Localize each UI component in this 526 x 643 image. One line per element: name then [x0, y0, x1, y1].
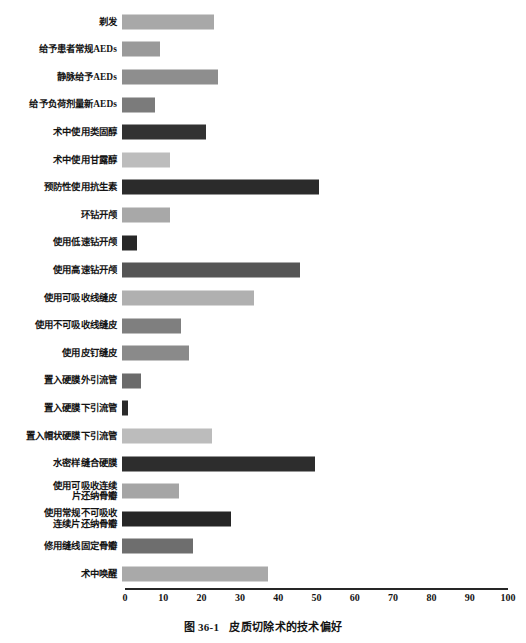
- bar: [122, 235, 137, 250]
- bar: [122, 373, 141, 388]
- figure-container: 剃发给予患者常规AEDs静脉给予AEDs给予负荷剂量新AEDs术中使用类固醇术中…: [0, 0, 526, 643]
- bar: [122, 318, 181, 333]
- figure-caption: 图 36-1皮质切除术的技术偏好: [0, 618, 526, 634]
- bar-track: [122, 422, 526, 450]
- bar-category-label: 修用缝线固定骨瓣: [0, 541, 122, 552]
- bar-category-label: 预防性使用抗生素: [0, 182, 122, 193]
- x-axis-tick-label: 50: [312, 592, 322, 603]
- bar-track: [122, 367, 526, 395]
- bar-category-label: 剃发: [0, 17, 122, 28]
- bar-category-label: 置入帽状硬膜下引流管: [0, 431, 122, 442]
- bar: [122, 97, 155, 112]
- bar: [122, 566, 268, 581]
- bar-category-label: 使用可吸收线缝皮: [0, 293, 122, 304]
- bar: [122, 539, 193, 554]
- bar-category-label: 环钻开颅: [0, 210, 122, 221]
- bar: [122, 70, 218, 85]
- x-axis-tick-label: 20: [197, 592, 207, 603]
- x-axis-tick-label: 80: [426, 592, 436, 603]
- bar-category-label: 给予患者常规AEDs: [0, 44, 122, 55]
- chart-row: 使用皮钉缝皮: [0, 339, 526, 367]
- bar-track: [122, 229, 526, 257]
- bar-category-label: 使用常规不可吸收连续片还纳骨瓣: [0, 508, 122, 529]
- bar-track: [122, 36, 526, 64]
- bar-track: [122, 284, 526, 312]
- bar-track: [122, 63, 526, 91]
- bar: [122, 42, 160, 57]
- bar-category-label: 使用皮钉缝皮: [0, 348, 122, 359]
- bar-category-label: 术中唤醒: [0, 569, 122, 580]
- chart-row: 术中使用甘露醇: [0, 146, 526, 174]
- bar-category-label: 术中使用类固醇: [0, 127, 122, 138]
- chart-row: 使用可吸收线缝皮: [0, 284, 526, 312]
- bar-track: [122, 339, 526, 367]
- x-axis: 0102030405060708090100: [0, 588, 526, 614]
- x-axis-tick-label: 10: [158, 592, 168, 603]
- bar-category-label: 置入硬膜外引流管: [0, 375, 122, 386]
- bar-category-label: 使用可吸收连续片还纳骨瓣: [0, 481, 122, 502]
- chart-row: 术中使用类固醇: [0, 118, 526, 146]
- bar: [122, 180, 319, 195]
- chart-row: 术中唤醒: [0, 560, 526, 588]
- chart-row: 给予患者常规AEDs: [0, 36, 526, 64]
- figure-caption-text: 皮质切除术的技术偏好: [229, 621, 342, 633]
- bar-chart-plot-area: 剃发给予患者常规AEDs静脉给予AEDs给予负荷剂量新AEDs术中使用类固醇术中…: [0, 8, 526, 588]
- x-axis-tick-label: 0: [123, 592, 128, 603]
- bar-track: [122, 174, 526, 202]
- bar: [122, 125, 206, 140]
- chart-row: 修用缝线固定骨瓣: [0, 533, 526, 561]
- x-axis-tick-label: 100: [501, 592, 516, 603]
- bar: [122, 511, 231, 526]
- chart-row: 静脉给予AEDs: [0, 63, 526, 91]
- bar-category-label: 使用不可吸收线缝皮: [0, 320, 122, 331]
- bar-track: [122, 477, 526, 505]
- bar-track: [122, 450, 526, 478]
- bar-track: [122, 533, 526, 561]
- bar-category-label: 使用高速钻开颅: [0, 265, 122, 276]
- bar-track: [122, 312, 526, 340]
- chart-row: 使用可吸收连续片还纳骨瓣: [0, 477, 526, 505]
- bar-track: [122, 201, 526, 229]
- bar-category-label: 术中使用甘露醇: [0, 155, 122, 166]
- chart-row: 使用常规不可吸收连续片还纳骨瓣: [0, 505, 526, 533]
- bar: [122, 263, 300, 278]
- bar-category-label: 水密样缝合硬膜: [0, 458, 122, 469]
- chart-row: 置入硬膜下引流管: [0, 395, 526, 423]
- x-axis-tick-label: 70: [388, 592, 398, 603]
- bar-category-label: 置入硬膜下引流管: [0, 403, 122, 414]
- bar: [122, 152, 170, 167]
- bar: [122, 14, 214, 29]
- bar-track: [122, 395, 526, 423]
- bar-track: [122, 560, 526, 588]
- bar: [122, 208, 170, 223]
- bar-track: [122, 91, 526, 119]
- bar: [122, 484, 179, 499]
- bar-category-label: 给予负荷剂量新AEDs: [0, 99, 122, 110]
- x-axis-tick-label: 90: [465, 592, 475, 603]
- chart-row: 剃发: [0, 8, 526, 36]
- bar-category-label: 静脉给予AEDs: [0, 72, 122, 83]
- bar: [122, 456, 315, 471]
- bar-track: [122, 256, 526, 284]
- bar-track: [122, 8, 526, 36]
- bar-track: [122, 118, 526, 146]
- chart-row: 置入帽状硬膜下引流管: [0, 422, 526, 450]
- bar-track: [122, 146, 526, 174]
- bar: [122, 290, 254, 305]
- chart-row: 水密样缝合硬膜: [0, 450, 526, 478]
- chart-row: 给予负荷剂量新AEDs: [0, 91, 526, 119]
- bar: [122, 401, 128, 416]
- x-axis-line: [125, 588, 508, 590]
- x-axis-tick-label: 30: [235, 592, 245, 603]
- x-axis-tick-label: 40: [273, 592, 283, 603]
- x-axis-tick-label: 60: [350, 592, 360, 603]
- chart-row: 使用低速钻开颅: [0, 229, 526, 257]
- bar-track: [122, 505, 526, 533]
- chart-row: 使用高速钻开颅: [0, 256, 526, 284]
- bar-category-label: 使用低速钻开颅: [0, 237, 122, 248]
- figure-caption-number: 图 36-1: [184, 621, 220, 633]
- bar: [122, 428, 212, 443]
- chart-row: 置入硬膜外引流管: [0, 367, 526, 395]
- chart-row: 使用不可吸收线缝皮: [0, 312, 526, 340]
- bar: [122, 346, 189, 361]
